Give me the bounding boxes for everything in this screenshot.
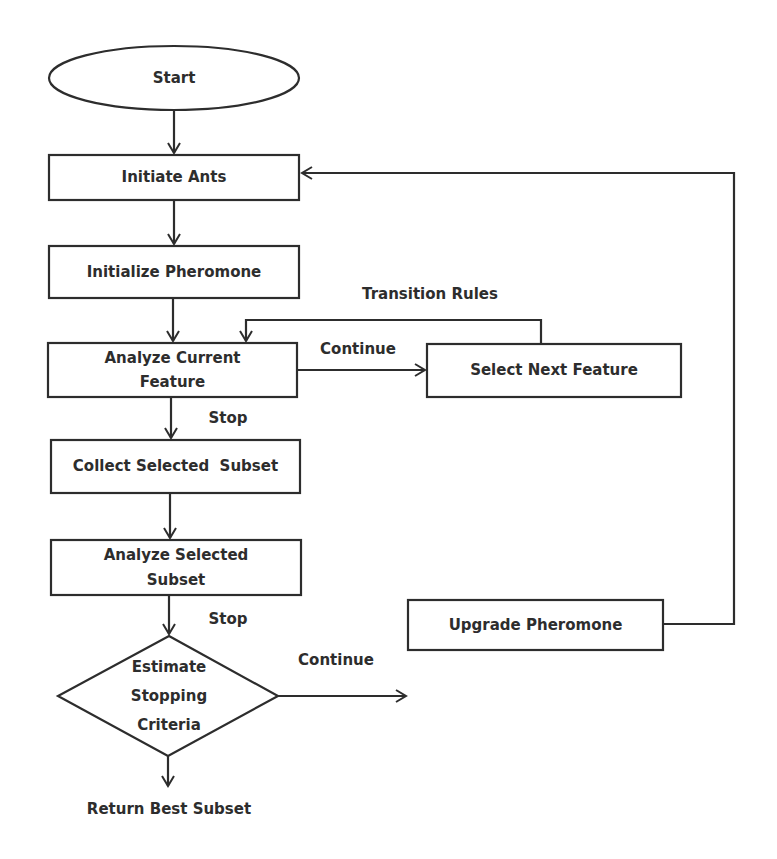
analyze-current-feature-line1: Analyze Current [105, 346, 241, 370]
analyze-selected-subset-line1: Analyze Selected [104, 543, 249, 568]
start-node: Start [49, 46, 299, 110]
estimate-stopping-criteria-line1: Estimate [132, 653, 207, 682]
initialize-pheromone-node: Initialize Pheromone [49, 246, 299, 298]
continue-feature-label: Continue [308, 340, 408, 359]
analyze-selected-subset-node: Analyze Selected Subset [51, 540, 301, 595]
initialize-pheromone-label: Initialize Pheromone [87, 263, 262, 282]
select-next-feature-node: Select Next Feature [427, 344, 681, 397]
stop-subset-label: Stop [198, 610, 258, 629]
estimate-stopping-criteria-node: Estimate Stopping Criteria [98, 650, 240, 742]
edge-upgrade-to-initiate-loop [302, 173, 734, 624]
analyze-current-feature-node: Analyze Current Feature [48, 343, 297, 397]
transition-rules-label: Transition Rules [340, 285, 520, 304]
start-label: Start [153, 69, 196, 88]
return-best-subset-label: Return Best Subset [60, 800, 278, 819]
upgrade-pheromone-node: Upgrade Pheromone [408, 600, 663, 650]
estimate-stopping-criteria-line2: Stopping [131, 682, 207, 711]
analyze-current-feature-line2: Feature [140, 370, 205, 394]
analyze-selected-subset-line2: Subset [147, 568, 206, 593]
initiate-ants-label: Initiate Ants [122, 168, 227, 187]
select-next-feature-label: Select Next Feature [470, 361, 638, 380]
collect-selected-subset-label: Collect Selected Subset [73, 457, 278, 476]
upgrade-pheromone-label: Upgrade Pheromone [449, 616, 623, 635]
stop-feature-label: Stop [198, 409, 258, 428]
estimate-stopping-criteria-line3: Criteria [137, 711, 201, 740]
continue-criteria-label: Continue [286, 651, 386, 670]
initiate-ants-node: Initiate Ants [49, 155, 299, 200]
collect-selected-subset-node: Collect Selected Subset [51, 440, 300, 493]
